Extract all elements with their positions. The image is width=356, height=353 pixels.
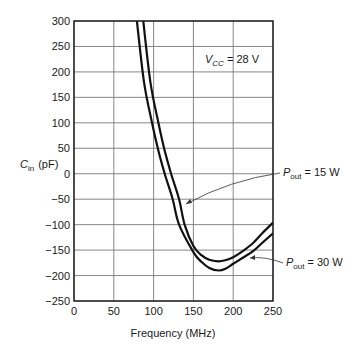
y-axis-label-sub: in [28,164,34,173]
y-tick-label: 50 [58,142,70,154]
x-tick-label: 100 [144,305,162,317]
x-tick-label: 0 [71,305,77,317]
y-tick-label: −50 [51,193,70,205]
x-tick-label: 200 [224,305,242,317]
y-tick-label: −200 [45,270,70,282]
y-tick-label: 0 [64,168,70,180]
x-tick-label: 250 [264,305,282,317]
arrow-15w-head [186,199,192,204]
y-tick-label: 300 [52,15,70,27]
chart: 300250200150100500−50−100−150−200−250 05… [0,0,356,353]
legend-30w-sub: out [293,262,305,271]
y-tick-label: −150 [45,244,70,256]
legend-label-30w: Pout = 30 W [286,256,343,271]
y-tick-label: 250 [52,40,70,52]
vcc-rest: = 28 V [224,53,260,65]
y-tick-label: 150 [52,91,70,103]
x-axis-label: Frequency (MHz) [131,327,216,339]
y-tick-label: −100 [45,219,70,231]
y-axis-label-main: C [20,158,28,170]
y-tick-label: 200 [52,66,70,78]
y-axis-label: Cin(pF) [20,158,58,173]
y-tick-label: −250 [45,295,70,307]
vcc-annotation: VCC = 28 V [205,53,260,68]
legend-15w-sub: out [290,172,302,181]
legend-label-15w: Pout = 15 W [283,166,340,181]
x-tick-label: 150 [184,305,202,317]
x-tick-label: 50 [108,305,120,317]
arrow-30w-head [250,255,255,260]
y-axis-label-unit: (pF) [38,158,58,170]
vcc-sub: CC [212,59,224,68]
x-tick-labels: 050100150200250 [71,305,282,317]
legend-30w-rest: = 30 W [304,256,343,268]
y-tick-label: 100 [52,117,70,129]
legend-15w-rest: = 15 W [301,166,340,178]
